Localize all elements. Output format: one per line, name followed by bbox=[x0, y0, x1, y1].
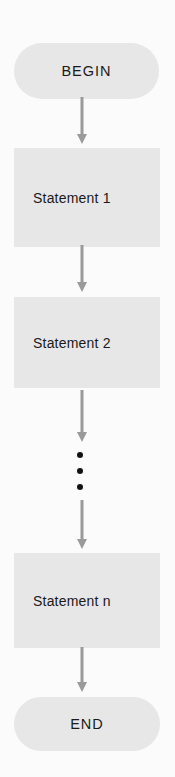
statement-n-label: Statement n bbox=[33, 593, 111, 609]
begin-label: BEGIN bbox=[61, 63, 111, 79]
arrow-down-icon bbox=[76, 245, 88, 292]
statement-1-label: Statement 1 bbox=[33, 190, 111, 206]
end-terminal: END bbox=[14, 697, 160, 751]
ellipsis-dot bbox=[77, 484, 83, 490]
statement-n-box: Statement n bbox=[14, 553, 160, 648]
arrow-down-icon bbox=[76, 390, 88, 442]
arrow-down-icon bbox=[76, 97, 88, 144]
arrow-down-icon bbox=[76, 500, 88, 549]
statement-1-box: Statement 1 bbox=[14, 148, 160, 247]
end-label: END bbox=[70, 716, 104, 732]
begin-terminal: BEGIN bbox=[14, 43, 159, 99]
statement-2-box: Statement 2 bbox=[14, 297, 160, 388]
ellipsis-dot bbox=[77, 468, 83, 474]
arrow-down-icon bbox=[76, 647, 88, 692]
statement-2-label: Statement 2 bbox=[33, 335, 111, 351]
ellipsis-dot bbox=[77, 452, 83, 458]
